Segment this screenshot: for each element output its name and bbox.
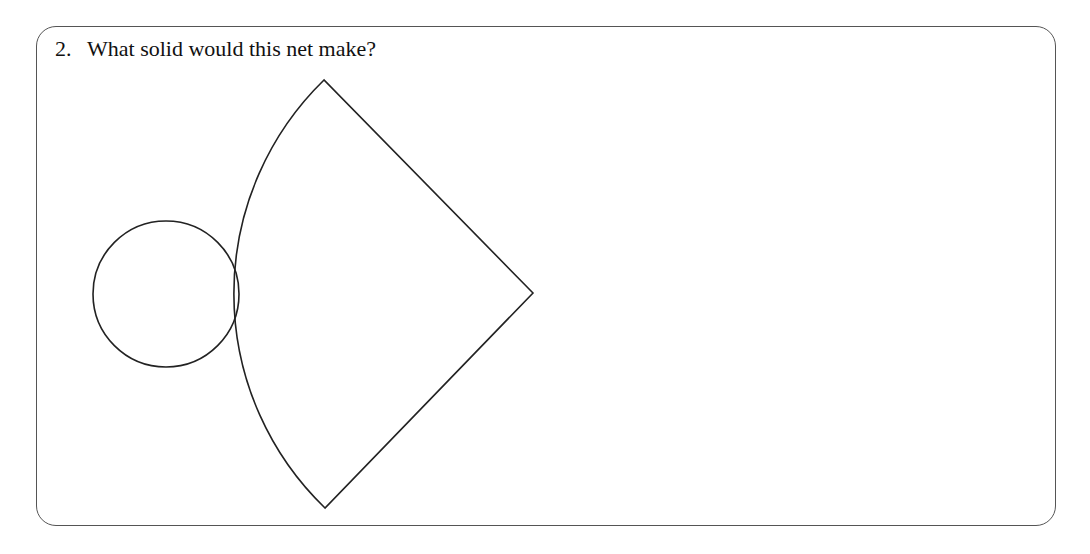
circle-base [93, 221, 239, 367]
cone-net-figure [0, 0, 1090, 554]
circular-sector [234, 80, 533, 508]
